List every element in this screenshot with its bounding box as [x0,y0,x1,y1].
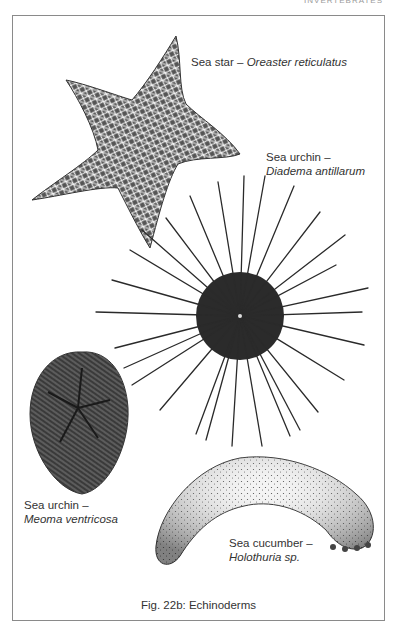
sea-cucumber-label: Sea cucumber – Holothuria sp. [229,536,313,564]
scientific-name: Meoma ventricosa [24,513,118,525]
figure-caption: Fig. 22b: Echinoderms [0,599,397,611]
common-name: Sea urchin – [24,498,118,512]
diadema-label: Sea urchin – Diadema antillarum [266,150,365,178]
scientific-name: Holothuria sp. [229,551,300,563]
sea-star-label: Sea star – Oreaster reticulatus [191,55,347,69]
common-name: Sea urchin – [266,150,365,164]
scientific-name: Diadema antillarum [266,165,365,177]
common-name: Sea star – [191,56,243,68]
echinoderm-illustrations [0,0,397,636]
meoma-urchin-illustration [30,352,128,494]
meoma-label: Sea urchin – Meoma ventricosa [24,498,118,526]
scientific-name: Oreaster reticulatus [247,56,347,68]
common-name: Sea cucumber – [229,536,313,550]
